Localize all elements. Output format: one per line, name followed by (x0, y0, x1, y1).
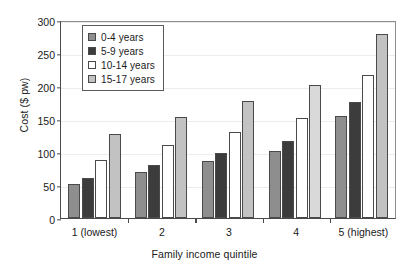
bar (215, 153, 227, 218)
legend-swatch-icon (88, 33, 96, 41)
y-tick-label: 150 (37, 115, 61, 127)
legend-label: 15-17 years (101, 74, 155, 85)
x-tick-mark (128, 218, 129, 223)
y-tick-label: 100 (37, 148, 61, 160)
legend-swatch-icon (88, 47, 96, 55)
y-axis-title: Cost ($ pw) (18, 50, 30, 160)
bar (175, 117, 187, 218)
bar (376, 34, 388, 218)
y-tick-label: 250 (37, 49, 61, 61)
bar (242, 101, 254, 218)
x-tick-label: 5 (highest) (339, 226, 389, 238)
bar-group (261, 22, 328, 218)
legend-swatch-icon (88, 75, 96, 83)
x-tick-label: 2 (159, 226, 165, 238)
chart-legend: 0-4 years 5-9 years 10-14 years 15-17 ye… (82, 25, 164, 91)
x-tick-mark (263, 218, 264, 223)
bar (95, 160, 107, 218)
legend-item: 10-14 years (88, 58, 155, 72)
legend-label: 5-9 years (101, 46, 144, 57)
bar (68, 184, 80, 218)
x-tick-mark (330, 218, 331, 223)
y-tick-label: 300 (37, 16, 61, 28)
bar (82, 178, 94, 218)
bar (309, 85, 321, 218)
legend-label: 10-14 years (101, 60, 155, 71)
bar-group (328, 22, 395, 218)
y-tick-label: 200 (37, 82, 61, 94)
x-tick-label: 3 (226, 226, 232, 238)
x-tick-mark (195, 218, 196, 223)
legend-item: 5-9 years (88, 44, 155, 58)
y-tick-label: 50 (43, 181, 61, 193)
bar (135, 172, 147, 218)
bar (109, 134, 121, 218)
legend-label: 0-4 years (101, 32, 144, 43)
x-tick-label: 4 (293, 226, 299, 238)
bar (229, 132, 241, 218)
legend-item: 0-4 years (88, 30, 155, 44)
bar (202, 161, 214, 218)
x-axis-title: Family income quintile (0, 248, 409, 260)
bar (162, 145, 174, 218)
y-tick-label: 0 (49, 214, 61, 226)
bar (335, 116, 347, 218)
legend-swatch-icon (88, 61, 96, 69)
bar (269, 151, 281, 218)
bar (296, 118, 308, 218)
bar (362, 75, 374, 218)
bar (349, 102, 361, 218)
x-tick-label: 1 (lowest) (72, 226, 118, 238)
bar-chart-figure: Cost ($ pw) 050100150200250300 1 (lowest… (0, 0, 409, 267)
bar (148, 165, 160, 218)
bar-group (195, 22, 262, 218)
legend-item: 15-17 years (88, 72, 155, 86)
bar (282, 141, 294, 218)
